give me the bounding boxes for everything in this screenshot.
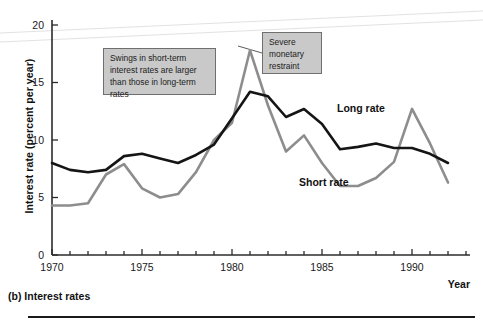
long-rate-line <box>52 92 448 173</box>
y-axis-ticks <box>52 25 58 255</box>
x-axis-tick-labels: 19701975198019851990 <box>40 261 424 273</box>
x-tick-label: 1980 <box>220 261 244 273</box>
x-tick-label: 1990 <box>400 261 424 273</box>
y-tick-label: 0 <box>38 249 44 261</box>
swings-callout: Swings in short-term interest rates are … <box>103 48 216 95</box>
x-tick-label: 1975 <box>130 261 154 273</box>
x-tick-label: 1970 <box>40 261 64 273</box>
long-rate-label: Long rate <box>337 102 385 114</box>
x-tick-label: 1985 <box>310 261 334 273</box>
figure-panel: 05101520 19701975198019851990 Long rate … <box>0 0 483 328</box>
x-axis-title: Year <box>448 278 470 290</box>
x-axis-ticks <box>52 249 466 255</box>
short-rate-label: Short rate <box>299 176 349 188</box>
figure-caption: (b) Interest rates <box>8 290 90 302</box>
scan-artifact-lines <box>0 11 483 42</box>
bottom-rule <box>28 316 475 318</box>
interest-rates-chart: 05101520 19701975198019851990 Long rate … <box>0 0 483 328</box>
y-axis-title: Interest rate (percent per year) <box>23 11 35 261</box>
y-tick-label: 5 <box>38 191 44 203</box>
severe-callout: Severe monetary restraint <box>262 32 322 74</box>
